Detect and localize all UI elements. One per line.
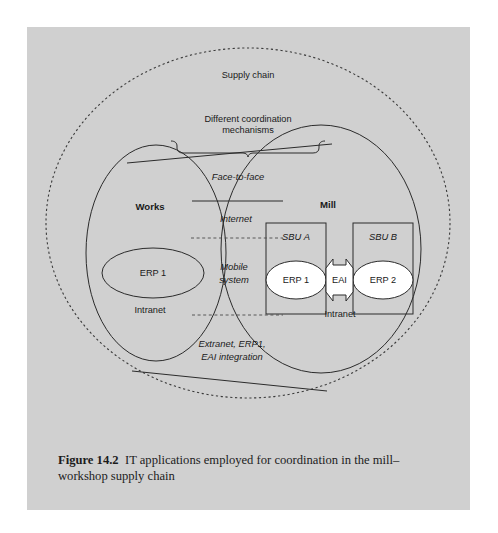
diagram-canvas: Supply chain Different coordination mech… bbox=[27, 27, 470, 447]
mechanism-face-to-face-label: Face-to-face bbox=[212, 171, 265, 182]
curly-brace-icon bbox=[171, 141, 325, 157]
mill-intranet-label: Intranet bbox=[324, 309, 356, 319]
mill-label: Mill bbox=[320, 199, 336, 210]
mechanism-extranet-label-line2: EAI integration bbox=[201, 351, 263, 362]
mechanism-internet-label: Internet bbox=[220, 213, 252, 224]
figure-panel: Supply chain Different coordination mech… bbox=[27, 27, 470, 510]
figure-number: Figure 14.2 bbox=[58, 453, 125, 467]
works-erp1-label: ERP 1 bbox=[140, 268, 166, 278]
sbu-a-label: SBU A bbox=[282, 231, 310, 242]
supply-chain-label: Supply chain bbox=[222, 70, 275, 80]
mill-boundary bbox=[221, 125, 421, 373]
coordination-label-line1: Different coordination bbox=[204, 114, 291, 124]
sbu-a-erp-label: ERP 1 bbox=[283, 275, 309, 285]
sbu-b-erp-label: ERP 2 bbox=[370, 275, 396, 285]
works-label: Works bbox=[135, 201, 164, 212]
works-boundary bbox=[86, 145, 226, 361]
figure-caption: Figure 14.2IT applications employed for … bbox=[58, 452, 438, 484]
eai-label: EAI bbox=[332, 275, 347, 285]
coordination-label-line2: mechanisms bbox=[222, 125, 274, 135]
works-intranet-label: Intranet bbox=[134, 305, 166, 315]
mechanism-extranet-label-line1: Extranet, ERP1, bbox=[198, 338, 265, 349]
sbu-b-label: SBU B bbox=[369, 231, 397, 242]
mechanism-mobile-system-label-line2: system bbox=[219, 274, 249, 285]
mechanism-mobile-system-label-line1: Mobile bbox=[220, 261, 248, 272]
